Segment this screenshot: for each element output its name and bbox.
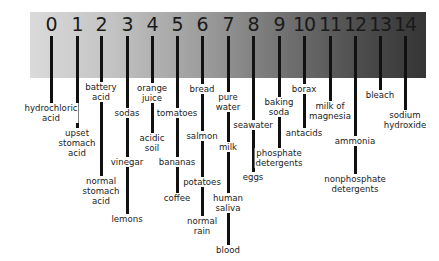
substance-label: bread bbox=[189, 84, 216, 94]
substance-label: upsetstomachacid bbox=[58, 128, 97, 158]
ph-tick-line-6 bbox=[201, 36, 204, 216]
ph-number-6: 6 bbox=[189, 13, 215, 35]
ph-tick-line-10 bbox=[303, 36, 306, 128]
ph-tick-line-11 bbox=[329, 36, 332, 101]
ph-number-13: 13 bbox=[367, 13, 393, 35]
substance-label: orangejuice bbox=[136, 83, 168, 103]
ph-tick-line-14 bbox=[404, 36, 407, 110]
substance-label: normalrain bbox=[186, 216, 218, 236]
ph-number-11: 11 bbox=[317, 13, 343, 35]
ph-tick-line-0 bbox=[50, 36, 53, 103]
substance-label: acidicsoil bbox=[139, 133, 166, 153]
substance-label: milk ofmagnesia bbox=[308, 101, 352, 121]
substance-label: eggs bbox=[242, 172, 265, 182]
substance-label: lemons bbox=[110, 214, 143, 224]
substance-label: blood bbox=[215, 245, 241, 255]
substance-label: vinegar bbox=[110, 157, 144, 167]
substance-label: purewater bbox=[215, 92, 242, 112]
substance-label: coffee bbox=[163, 193, 191, 203]
substance-label: sodiumhydroxide bbox=[383, 110, 428, 130]
substance-label: normalstomachacid bbox=[82, 176, 121, 206]
substance-label: phosphatedetergents bbox=[255, 148, 304, 168]
ph-number-2: 2 bbox=[88, 13, 114, 35]
substance-label: milk bbox=[218, 142, 238, 152]
ph-number-0: 0 bbox=[38, 13, 64, 35]
ph-number-14: 14 bbox=[392, 13, 418, 35]
substance-label: salmon bbox=[185, 131, 218, 141]
ph-tick-line-7 bbox=[227, 36, 230, 245]
substance-label: ammonia bbox=[334, 136, 376, 146]
substance-label: nonphosphatedetergents bbox=[323, 174, 387, 194]
substance-label: batteryacid bbox=[84, 82, 117, 102]
ph-tick-line-12 bbox=[354, 36, 357, 174]
substance-label: bakingsoda bbox=[264, 97, 295, 117]
ph-tick-line-2 bbox=[100, 36, 103, 176]
substance-label: tomatoes bbox=[156, 108, 199, 118]
substance-label: bleach bbox=[365, 90, 396, 100]
ph-number-10: 10 bbox=[291, 13, 317, 35]
ph-number-4: 4 bbox=[139, 13, 165, 35]
substance-label: hydrochloricacid bbox=[23, 103, 78, 123]
substance-label: seawater bbox=[232, 120, 274, 130]
ph-number-1: 1 bbox=[64, 13, 90, 35]
substance-label: antacids bbox=[285, 128, 323, 138]
ph-tick-line-3 bbox=[126, 36, 129, 214]
ph-number-9: 9 bbox=[266, 13, 292, 35]
substance-label: sodas bbox=[114, 108, 141, 118]
substance-label: borax bbox=[291, 84, 318, 94]
ph-number-7: 7 bbox=[215, 13, 241, 35]
ph-number-8: 8 bbox=[240, 13, 266, 35]
substance-label: potatoes bbox=[182, 177, 222, 187]
ph-tick-line-9 bbox=[278, 36, 281, 148]
ph-number-5: 5 bbox=[164, 13, 190, 35]
substance-label: bananas bbox=[158, 157, 197, 167]
ph-number-3: 3 bbox=[114, 13, 140, 35]
substance-label: humansaliva bbox=[212, 193, 244, 213]
ph-tick-line-13 bbox=[379, 36, 382, 90]
ph-number-12: 12 bbox=[342, 13, 368, 35]
